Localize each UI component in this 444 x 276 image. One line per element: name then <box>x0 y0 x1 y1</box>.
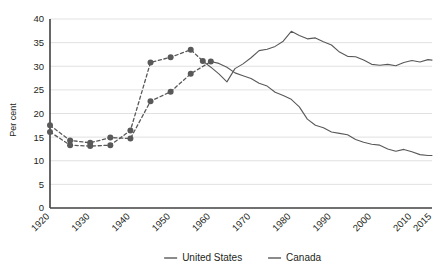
x-axis-tick-labels: 1920193019401950196019701980199020002010… <box>29 211 434 234</box>
x-tick-label: 1920 <box>29 211 52 234</box>
y-axis-label-text: Per cent <box>8 103 18 137</box>
y-tick-label: 10 <box>33 155 44 166</box>
x-tick-label: 1990 <box>310 211 333 234</box>
y-axis-tick-labels: 0510152025303540 <box>33 13 44 213</box>
x-tick-label: 1930 <box>69 211 92 234</box>
data-point-marker <box>87 143 93 149</box>
data-point-marker <box>168 54 174 60</box>
data-point-marker <box>47 122 53 128</box>
data-point-marker <box>107 135 113 141</box>
x-tick-label: 2000 <box>350 211 373 234</box>
legend-label-canada: Canada <box>286 252 321 263</box>
data-point-marker <box>188 71 194 77</box>
series-united-states <box>47 59 432 156</box>
y-axis-title: Per cent <box>8 103 18 137</box>
x-tick-label: 1980 <box>270 211 293 234</box>
x-tick-label: 2015 <box>411 211 434 234</box>
chart-container: 0510152025303540 19201930194019501960197… <box>0 0 444 276</box>
x-tick-label: 1960 <box>190 211 213 234</box>
data-point-marker <box>47 129 53 135</box>
y-tick-label: 15 <box>33 132 44 143</box>
data-point-marker <box>168 89 174 95</box>
line-chart: 0510152025303540 19201930194019501960197… <box>0 0 444 276</box>
x-tick-label: 1950 <box>149 211 172 234</box>
data-point-marker <box>148 59 154 65</box>
data-point-marker <box>127 136 133 142</box>
y-tick-label: 20 <box>33 108 44 119</box>
series-solid-line <box>211 62 432 156</box>
data-point-marker <box>127 128 133 134</box>
x-tick-label: 1940 <box>109 211 132 234</box>
series-dashed-line <box>50 50 203 146</box>
data-point-marker <box>67 142 73 148</box>
y-tick-label: 35 <box>33 37 44 48</box>
chart-legend: United StatesCanada <box>164 252 321 263</box>
legend-label-united-states: United States <box>182 252 242 263</box>
x-tick-label: 2010 <box>391 211 414 234</box>
x-tick-label: 1970 <box>230 211 253 234</box>
y-tick-label: 5 <box>39 179 44 190</box>
y-tick-label: 40 <box>33 13 44 24</box>
data-point-marker <box>107 142 113 148</box>
y-tick-label: 30 <box>33 61 44 72</box>
series-solid-line <box>203 31 432 82</box>
data-point-marker <box>188 47 194 53</box>
data-point-marker <box>148 98 154 104</box>
y-tick-label: 25 <box>33 84 44 95</box>
grid-lines <box>50 19 432 184</box>
